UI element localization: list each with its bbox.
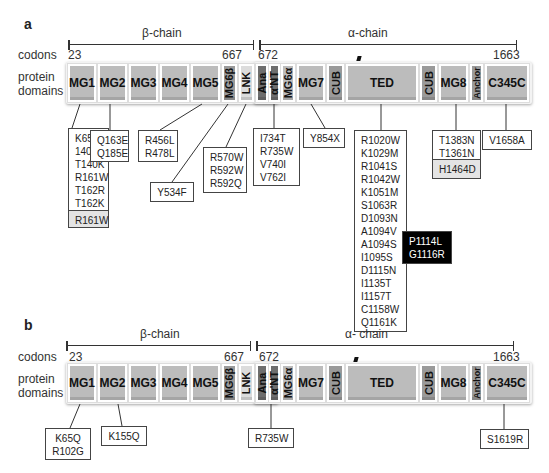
connector-lines <box>0 0 549 473</box>
